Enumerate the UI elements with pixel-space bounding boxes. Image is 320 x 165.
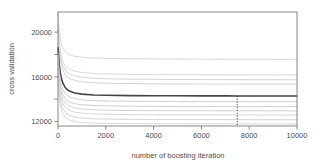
y-tick-label: 16000 (31, 73, 52, 82)
x-tick-label: 8000 (241, 131, 258, 140)
x-tick-label: 2000 (97, 131, 114, 140)
cross-validation-line-chart: 0200040006000800010000 120001600020000 n… (0, 0, 320, 165)
y-tick-label: 12000 (31, 117, 52, 126)
plot-background (0, 0, 320, 165)
x-axis-title: number of boosting iteration (132, 151, 225, 160)
x-tick-label: 10000 (287, 131, 308, 140)
x-tick-label: 6000 (193, 131, 210, 140)
x-tick-label: 0 (56, 131, 60, 140)
chart-figure: 0200040006000800010000 120001600020000 n… (0, 0, 320, 165)
y-axis-title: cross validation (7, 43, 16, 95)
x-tick-label: 4000 (145, 131, 162, 140)
y-tick-label: 20000 (31, 28, 52, 37)
